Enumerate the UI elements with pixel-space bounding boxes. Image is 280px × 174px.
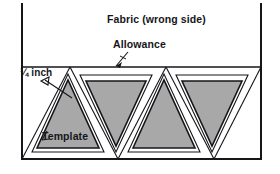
fabric-label: Fabric (wrong side) — [107, 14, 206, 25]
seam-width-label: ¼ inch — [20, 68, 52, 78]
sewing-template-diagram: Fabric (wrong side) Allowance ¼ inch Tem… — [0, 0, 280, 174]
allowance-label: Allowance — [113, 39, 166, 50]
diagram-canvas — [0, 0, 280, 174]
template-label: Template — [42, 131, 88, 142]
